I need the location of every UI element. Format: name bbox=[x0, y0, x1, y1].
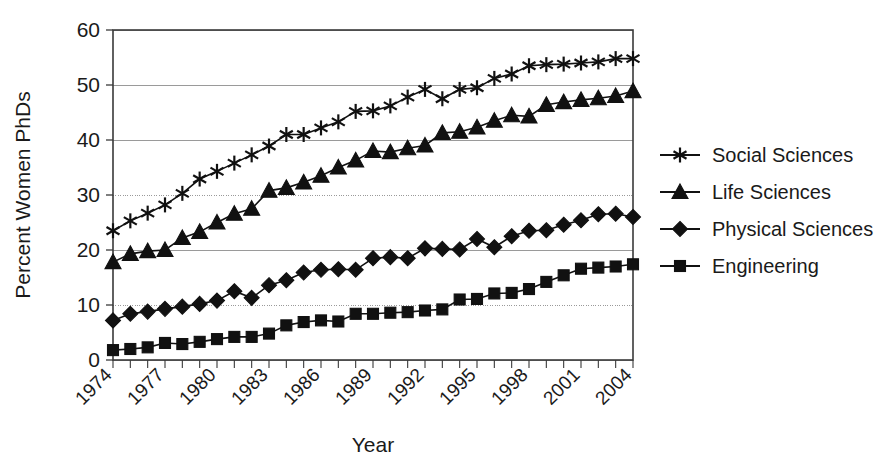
data-point-3-8 bbox=[246, 331, 257, 342]
data-point-3-22 bbox=[489, 288, 500, 299]
data-point-3-16 bbox=[385, 307, 396, 318]
data-point-3-23 bbox=[506, 287, 517, 298]
data-point-3-27 bbox=[576, 263, 587, 274]
square-icon bbox=[675, 261, 686, 272]
y-tick-label-60: 60 bbox=[77, 18, 100, 41]
data-point-3-17 bbox=[402, 307, 413, 318]
data-point-3-10 bbox=[281, 320, 292, 331]
data-point-3-12 bbox=[316, 315, 327, 326]
y-tick-label-40: 40 bbox=[77, 128, 100, 151]
data-point-3-3 bbox=[160, 337, 171, 348]
y-tick-label-10: 10 bbox=[77, 293, 100, 316]
data-point-3-1 bbox=[125, 344, 136, 355]
chart-figure: 0102030405060 19741977198019831986198919… bbox=[0, 0, 892, 462]
data-point-3-0 bbox=[108, 345, 119, 356]
y-tick-label-50: 50 bbox=[77, 73, 100, 96]
data-point-3-25 bbox=[541, 276, 552, 287]
data-point-3-24 bbox=[524, 284, 535, 295]
data-point-3-28 bbox=[593, 262, 604, 273]
y-axis-title: Percent Women PhDs bbox=[11, 91, 34, 298]
data-point-3-15 bbox=[368, 308, 379, 319]
x-axis-title: Year bbox=[352, 433, 394, 456]
data-point-3-26 bbox=[558, 270, 569, 281]
data-point-3-21 bbox=[472, 293, 483, 304]
data-point-3-2 bbox=[142, 342, 153, 353]
y-tick-label-20: 20 bbox=[77, 238, 100, 261]
data-point-3-20 bbox=[454, 294, 465, 305]
data-point-3-7 bbox=[229, 331, 240, 342]
data-point-3-4 bbox=[177, 339, 188, 350]
data-point-3-18 bbox=[420, 305, 431, 316]
data-point-3-13 bbox=[333, 316, 344, 327]
data-point-3-5 bbox=[194, 336, 205, 347]
data-point-3-9 bbox=[264, 328, 275, 339]
y-tick-label-30: 30 bbox=[77, 183, 100, 206]
percent-women-phds-line-chart: 0102030405060 19741977198019831986198919… bbox=[0, 0, 892, 462]
legend-label-0: Social Sciences bbox=[712, 144, 853, 166]
legend-label-2: Physical Sciences bbox=[712, 218, 873, 240]
data-point-3-29 bbox=[610, 261, 621, 272]
data-point-3-19 bbox=[437, 304, 448, 315]
data-point-3-30 bbox=[628, 259, 639, 270]
data-point-3-14 bbox=[350, 308, 361, 319]
legend-label-3: Engineering bbox=[712, 255, 819, 277]
data-point-3-11 bbox=[298, 317, 309, 328]
data-point-3-6 bbox=[212, 334, 223, 345]
legend-label-1: Life Sciences bbox=[712, 181, 831, 203]
